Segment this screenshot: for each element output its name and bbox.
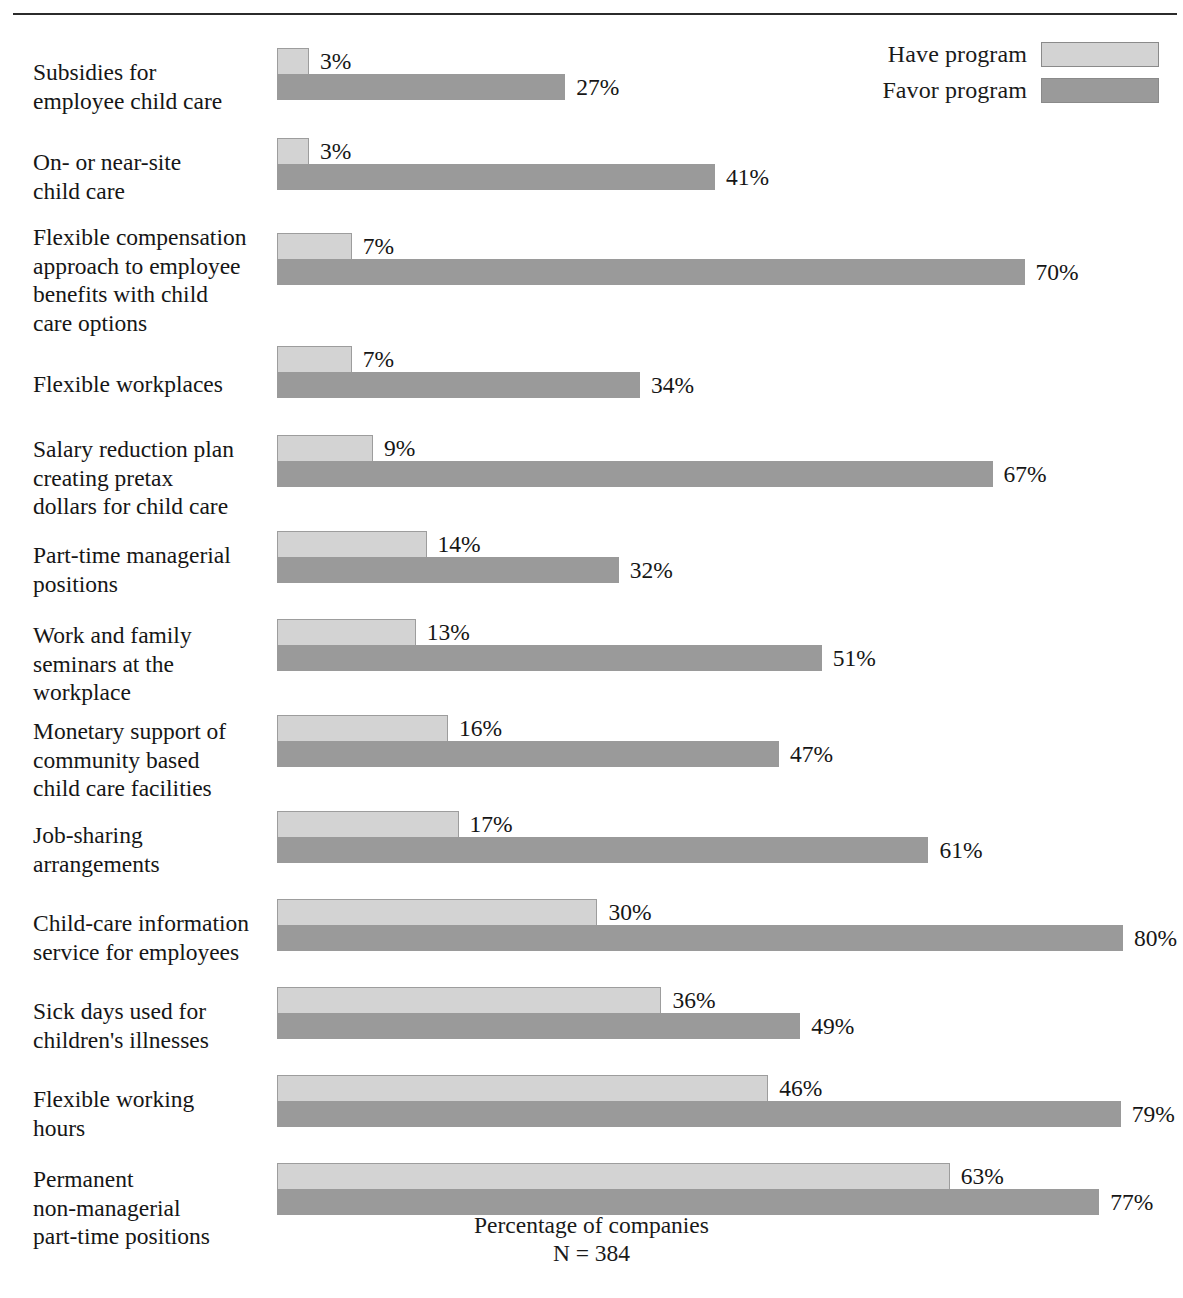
bar-have-program[interactable] — [277, 1163, 950, 1189]
category-label-line: child care facilities — [33, 774, 271, 803]
category-label: Flexible workinghours — [33, 1085, 271, 1142]
bar-have-program[interactable] — [277, 531, 427, 557]
bar-line-have-program: 16% — [277, 715, 1177, 741]
chart-row: Sick days used forchildren's illnesses36… — [0, 977, 1183, 1065]
bar-have-program[interactable] — [277, 1075, 768, 1101]
bar-have-program[interactable] — [277, 435, 373, 461]
category-label: Flexible compensationapproach to employe… — [33, 223, 271, 337]
category-label-line: care options — [33, 309, 271, 338]
chart-row: Flexible workinghours46%79% — [0, 1065, 1183, 1153]
category-label-line: Child-care information — [33, 909, 271, 938]
bar-favor-program[interactable] — [277, 925, 1123, 951]
chart-row: Monetary support ofcommunity basedchild … — [0, 705, 1183, 801]
bar-value-favor-program: 67% — [1004, 461, 1047, 487]
bar-favor-program[interactable] — [277, 1013, 800, 1039]
bar-group: 17%61% — [277, 811, 1177, 863]
bar-group: 46%79% — [277, 1075, 1177, 1127]
bar-line-favor-program: 49% — [277, 1013, 1177, 1039]
category-label: Salary reduction plancreating pretaxdoll… — [33, 435, 271, 521]
category-label: On- or near-sitechild care — [33, 148, 271, 205]
category-label-line: community based — [33, 746, 271, 775]
bar-have-program[interactable] — [277, 138, 309, 164]
bar-favor-program[interactable] — [277, 74, 565, 100]
bar-group: 3%27% — [277, 48, 1177, 100]
category-label: Work and familyseminars at theworkplace — [33, 621, 271, 707]
category-label-line: workplace — [33, 678, 271, 707]
category-label-line: positions — [33, 570, 271, 599]
bar-favor-program[interactable] — [277, 164, 715, 190]
bar-line-favor-program: 67% — [277, 461, 1177, 487]
chart-row: Salary reduction plancreating pretaxdoll… — [0, 424, 1183, 521]
category-label-line: arrangements — [33, 850, 271, 879]
bar-value-have-program: 3% — [320, 138, 351, 164]
bar-favor-program[interactable] — [277, 645, 822, 671]
bar-have-program[interactable] — [277, 715, 448, 741]
bar-have-program[interactable] — [277, 987, 661, 1013]
bar-favor-program[interactable] — [277, 461, 993, 487]
bar-line-favor-program: 34% — [277, 372, 1177, 398]
category-label: Sick days used forchildren's illnesses — [33, 997, 271, 1054]
category-label-line: employee child care — [33, 87, 271, 116]
bar-have-program[interactable] — [277, 811, 459, 837]
bar-line-have-program: 7% — [277, 233, 1177, 259]
category-label: Part-time managerialpositions — [33, 541, 271, 598]
bar-have-program[interactable] — [277, 619, 416, 645]
bar-favor-program[interactable] — [277, 741, 779, 767]
bar-value-have-program: 16% — [459, 715, 502, 741]
bar-value-have-program: 46% — [779, 1075, 822, 1101]
bar-value-favor-program: 41% — [726, 164, 769, 190]
bar-value-favor-program: 32% — [630, 557, 673, 583]
bar-value-favor-program: 34% — [651, 372, 694, 398]
bar-group: 63%77% — [277, 1163, 1177, 1215]
axis-caption-line-1: Percentage of companies — [0, 1211, 1183, 1239]
bar-line-favor-program: 41% — [277, 164, 1177, 190]
chart-row: On- or near-sitechild care3%41% — [0, 126, 1183, 216]
bar-value-favor-program: 51% — [833, 645, 876, 671]
category-label: Job-sharingarrangements — [33, 821, 271, 878]
category-label-line: Monetary support of — [33, 717, 271, 746]
category-label-line: approach to employee — [33, 252, 271, 281]
bar-favor-program[interactable] — [277, 837, 928, 863]
bar-favor-program[interactable] — [277, 557, 619, 583]
category-label-line: Flexible compensation — [33, 223, 271, 252]
bar-line-have-program: 63% — [277, 1163, 1177, 1189]
bar-value-favor-program: 49% — [811, 1013, 854, 1039]
bar-line-favor-program: 32% — [277, 557, 1177, 583]
category-label-line: children's illnesses — [33, 1026, 271, 1055]
category-label-line: Work and family — [33, 621, 271, 650]
bar-line-favor-program: 51% — [277, 645, 1177, 671]
bar-favor-program[interactable] — [277, 1101, 1121, 1127]
category-label-line: Job-sharing — [33, 821, 271, 850]
bar-line-favor-program: 79% — [277, 1101, 1177, 1127]
category-label-line: Sick days used for — [33, 997, 271, 1026]
bar-have-program[interactable] — [277, 233, 352, 259]
bar-line-favor-program: 27% — [277, 74, 1177, 100]
bar-line-have-program: 46% — [277, 1075, 1177, 1101]
category-label-line: Subsidies for — [33, 58, 271, 87]
bar-have-program[interactable] — [277, 48, 309, 74]
bar-favor-program[interactable] — [277, 372, 640, 398]
category-label-line: Part-time managerial — [33, 541, 271, 570]
bar-value-favor-program: 61% — [939, 837, 982, 863]
chart-row: Job-sharingarrangements17%61% — [0, 801, 1183, 889]
category-label-line: hours — [33, 1114, 271, 1143]
chart-row: Child-care informationservice for employ… — [0, 889, 1183, 977]
bar-line-have-program: 17% — [277, 811, 1177, 837]
bar-have-program[interactable] — [277, 899, 597, 925]
bar-group: 9%67% — [277, 435, 1177, 487]
bar-favor-program[interactable] — [277, 259, 1025, 285]
bar-line-have-program: 3% — [277, 48, 1177, 74]
category-label: Subsidies foremployee child care — [33, 58, 271, 115]
category-label-line: seminars at the — [33, 650, 271, 679]
bar-line-have-program: 13% — [277, 619, 1177, 645]
category-label-line: service for employees — [33, 938, 271, 967]
bar-value-have-program: 13% — [427, 619, 470, 645]
category-label-line: benefits with child — [33, 280, 271, 309]
bar-line-have-program: 30% — [277, 899, 1177, 925]
axis-caption: Percentage of companies N = 384 — [0, 1211, 1183, 1267]
bar-line-favor-program: 61% — [277, 837, 1177, 863]
bar-group: 30%80% — [277, 899, 1177, 951]
category-label-line: Permanent — [33, 1165, 271, 1194]
bar-value-favor-program: 79% — [1132, 1101, 1175, 1127]
bar-have-program[interactable] — [277, 346, 352, 372]
